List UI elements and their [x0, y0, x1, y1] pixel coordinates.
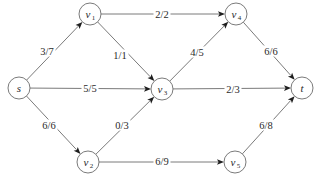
node-t: t: [291, 77, 313, 99]
node-v3: v3: [151, 78, 173, 100]
node-v4: v4: [225, 3, 247, 25]
node-label: v: [232, 8, 237, 20]
arrowhead-icon: [217, 159, 224, 165]
node-label: v: [231, 156, 236, 168]
node-subscript: 4: [238, 14, 242, 22]
arrowhead-icon: [144, 86, 151, 92]
node-label: v: [158, 83, 163, 95]
edge-label-s-v3: 5/5: [82, 83, 99, 94]
edge-label-v1-v3: 1/1: [112, 50, 129, 61]
node-subscript: 5: [237, 162, 241, 170]
flow-capacity-label: 2/3: [226, 84, 239, 95]
node-subscript: 1: [92, 14, 96, 22]
flow-capacity-label: 6/8: [259, 120, 272, 131]
node-label: s: [17, 82, 21, 94]
edge-label-s-v1: 3/7: [39, 46, 56, 57]
edge-label-v2-v3: 0/3: [114, 120, 131, 131]
flow-network-diagram: 3/75/56/62/21/10/36/94/52/36/66/8 sv1v2v…: [0, 0, 322, 177]
edge-label-v3-t: 2/3: [225, 84, 242, 95]
edge-label-v3-v4: 4/5: [189, 47, 206, 58]
node-v5: v5: [224, 151, 246, 173]
node-label: v: [86, 8, 91, 20]
edge-label-v2-v5: 6/9: [154, 156, 171, 167]
edge-label-s-v2: 6/6: [41, 120, 58, 131]
flow-capacity-label: 3/7: [40, 46, 53, 57]
flow-capacity-label: 6/6: [264, 46, 277, 57]
flow-capacity-label: 5/5: [83, 83, 96, 94]
node-label: v: [84, 156, 89, 168]
flow-capacity-label: 2/2: [155, 9, 168, 20]
node-v1: v1: [79, 3, 101, 25]
flow-capacity-label: 0/3: [115, 120, 128, 131]
node-subscript: 3: [164, 89, 168, 97]
arrowhead-icon: [218, 11, 225, 17]
flow-capacity-label: 1/1: [113, 50, 126, 61]
edge-label-v5-t: 6/8: [258, 120, 275, 131]
flow-capacity-label: 4/5: [190, 47, 203, 58]
node-s: s: [8, 77, 30, 99]
flow-capacity-label: 6/6: [42, 120, 55, 131]
edge-label-v4-t: 6/6: [263, 46, 280, 57]
node-v2: v2: [77, 151, 99, 173]
edge-label-v1-v4: 2/2: [154, 9, 171, 20]
node-subscript: 2: [90, 162, 94, 170]
flow-capacity-label: 6/9: [155, 156, 168, 167]
arrowhead-icon: [284, 85, 291, 91]
